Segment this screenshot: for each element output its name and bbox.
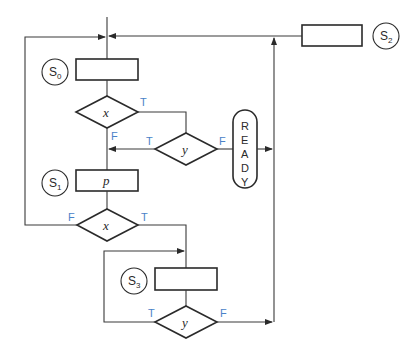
state-s2-name: S — [380, 29, 388, 43]
state-s1-name: S — [49, 176, 57, 190]
asm-chart: S 0 x T F y T F R E A D Y S 1 p x F T S … — [0, 0, 419, 350]
ready-letter: D — [241, 162, 249, 174]
ready-letter: E — [241, 134, 248, 146]
decision-y2-false: F — [220, 307, 227, 319]
state-s3-name: S — [128, 274, 136, 288]
decision-x1-var: x — [102, 105, 109, 120]
state-s1-sub: 1 — [57, 183, 62, 192]
state-s0-box — [76, 59, 138, 80]
decision-y1-var: y — [180, 142, 188, 157]
ready-letter: Y — [241, 176, 249, 188]
decision-x2-true: T — [141, 211, 148, 223]
ready-letter: A — [241, 148, 249, 160]
decision-x2-var: x — [102, 218, 109, 233]
state-s0-name: S — [49, 65, 57, 79]
decision-x2-false: F — [68, 211, 75, 223]
decision-x1-true: T — [140, 96, 147, 108]
decision-x1-false: F — [111, 130, 118, 142]
decision-y2-true: T — [148, 307, 155, 319]
x2-true-path — [138, 225, 186, 268]
state-s2-sub: 2 — [388, 36, 393, 45]
state-s3-sub: 3 — [136, 281, 141, 290]
decision-y1-true: T — [146, 135, 153, 147]
ready-letter: R — [241, 120, 249, 132]
x1-true-path — [138, 112, 186, 133]
state-s3-box — [155, 268, 217, 290]
state-s0-sub: 0 — [57, 72, 62, 81]
decision-y2-var: y — [180, 315, 188, 330]
decision-y1-false: F — [219, 135, 226, 147]
state-s1-output: p — [102, 173, 110, 188]
state-s2-box — [302, 25, 362, 46]
